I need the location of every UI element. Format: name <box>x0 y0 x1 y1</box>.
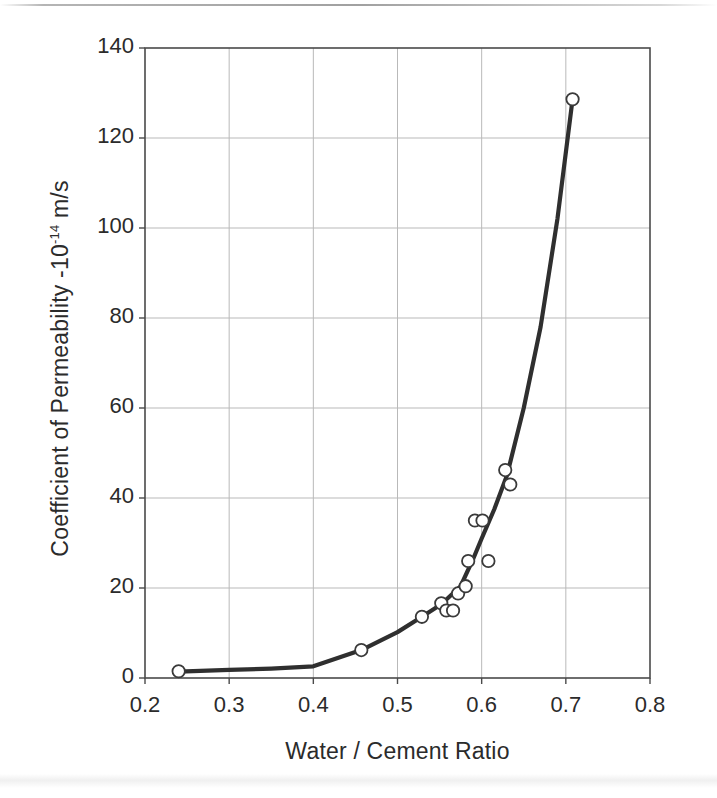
x-axis-tick-labels: 0.20.30.40.50.60.70.8 <box>0 0 717 798</box>
x-tick-label: 0.5 <box>363 692 433 718</box>
y-axis-title-exponent: -14 <box>47 225 62 244</box>
permeability-chart-figure: 020406080100120140 0.20.30.40.50.60.70.8… <box>0 0 717 798</box>
y-axis-title-units: m/s <box>47 180 73 218</box>
x-tick-label: 0.8 <box>615 692 685 718</box>
x-tick-label: 0.3 <box>194 692 264 718</box>
x-tick-label: 0.4 <box>278 692 348 718</box>
x-tick-label: 0.2 <box>110 692 180 718</box>
y-axis-title-text: Coefficient of Permeability -10 <box>47 244 73 557</box>
x-tick-label: 0.6 <box>447 692 517 718</box>
y-axis-title: Coefficient of Permeability -10-14 m/s <box>47 59 74 679</box>
x-tick-label: 0.7 <box>531 692 601 718</box>
x-axis-title: Water / Cement Ratio <box>145 738 650 765</box>
